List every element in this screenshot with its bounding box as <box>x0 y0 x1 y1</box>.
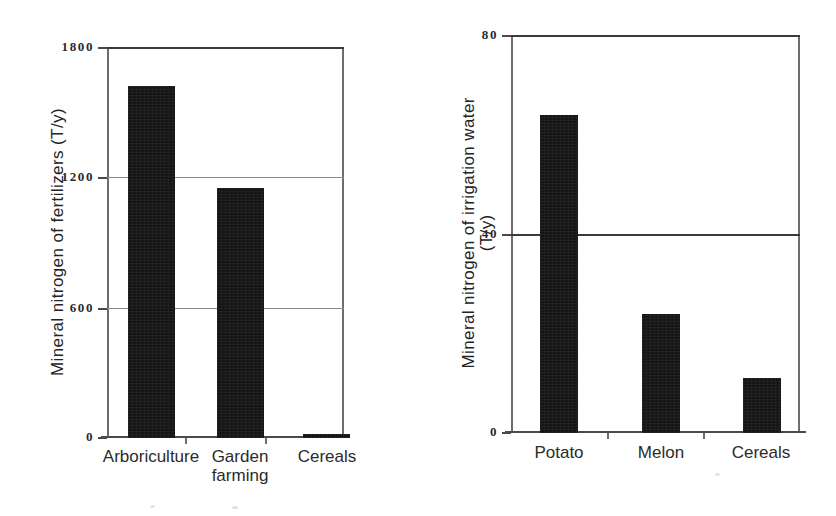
axis-frame-right <box>342 47 344 438</box>
ytick-mark-40 <box>502 234 511 236</box>
ytick-mark-1200 <box>98 177 107 179</box>
scan-speck <box>150 505 155 508</box>
figure-two-bar-charts: Mineral nitrogen of fertilizers (T/y) 18… <box>0 0 836 516</box>
bar-texture <box>217 188 264 438</box>
xtick-label-arboriculture: Arboriculture <box>103 447 199 466</box>
bar-garden-farming <box>217 188 264 438</box>
xtick-label-cereals: Cereals <box>298 447 357 466</box>
ytick-label-40: 40 <box>482 226 498 242</box>
bar-cereals <box>303 434 350 438</box>
bar-potato <box>540 115 578 433</box>
ytick-mark-600 <box>98 308 107 310</box>
bar-texture <box>128 86 175 438</box>
ytick-mark-0 <box>502 432 511 434</box>
scan-speck <box>232 506 238 509</box>
ytick-label-80: 80 <box>482 27 498 43</box>
bar-texture <box>743 378 781 433</box>
bar-texture <box>540 115 578 433</box>
ytick-mark-0 <box>98 437 107 439</box>
xtick-mark-2 <box>265 438 267 444</box>
xtick-label-potato: Potato <box>534 443 583 462</box>
xtick-label-cereals: Cereals <box>732 443 791 462</box>
ytick-label-1200: 1200 <box>62 169 94 185</box>
axis-frame-left <box>107 47 109 438</box>
plot-area-fertilizers: 1800 1200 600 0 <box>107 47 344 438</box>
chart-panel-irrigation-water: Mineral nitrogen of irrigation water (T/… <box>420 0 836 516</box>
bar-texture <box>642 314 680 433</box>
gridline-1800 <box>107 47 344 49</box>
chart-panel-fertilizers: Mineral nitrogen of fertilizers (T/y) 18… <box>0 0 420 516</box>
y-axis-title-fertilizers: Mineral nitrogen of fertilizers (T/y) <box>48 47 68 437</box>
xtick-mark-2 <box>703 433 705 439</box>
ytick-label-1800: 1800 <box>62 39 94 55</box>
xtick-label-garden-farming: Garden farming <box>212 447 269 485</box>
ytick-label-0: 0 <box>490 424 498 440</box>
xtick-mark-1 <box>607 433 609 439</box>
scan-speck <box>715 473 720 476</box>
ytick-mark-80 <box>502 35 511 37</box>
bar-melon <box>642 314 680 433</box>
xtick-label-melon: Melon <box>638 443 684 462</box>
plot-area-irrigation-water: 80 40 0 <box>511 35 800 433</box>
bar-arboriculture <box>128 86 175 438</box>
bar-texture <box>303 434 350 438</box>
bar-cereals <box>743 378 781 433</box>
ytick-mark-1800 <box>98 47 107 49</box>
ytick-label-0: 0 <box>86 429 94 445</box>
y-axis-title-line-1: Mineral nitrogen of irrigation water <box>459 97 478 368</box>
xtick-mark-1 <box>185 438 187 444</box>
gridline-80 <box>511 35 800 37</box>
ytick-label-600: 600 <box>70 300 94 316</box>
